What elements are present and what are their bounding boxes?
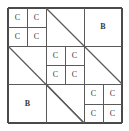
cell-label-text: C — [53, 71, 58, 79]
cell-label-text: C — [34, 14, 39, 22]
cell-c-l3-br-3: C — [84, 104, 103, 123]
cell-c-l3-br-2: C — [103, 84, 122, 103]
recursive-square-dissection-figure: CCCCBCCCCBCCCC — [0, 0, 129, 131]
cell-label-text: C — [15, 33, 20, 41]
cell-c-l1-tl-3: C — [8, 27, 27, 46]
cell-b-l1-tr: B — [84, 8, 122, 46]
cell-label-text: C — [53, 52, 58, 60]
cell-label-text: C — [15, 14, 20, 22]
cell-label-text: C — [110, 110, 115, 118]
cell-c-l3-br-4: C — [103, 104, 122, 123]
cell-label-text: B — [100, 23, 105, 31]
cell-c-l3-br-1: C — [84, 84, 103, 103]
cell-label-text: C — [34, 33, 39, 41]
cell-label-text: C — [72, 52, 77, 60]
line-diag-level3 — [46, 84, 84, 123]
cell-label-text: C — [110, 90, 115, 98]
cell-c-l1-tl-4: C — [27, 27, 46, 46]
cell-c-l1-tl-2: C — [27, 8, 46, 27]
cell-label-text: B — [25, 100, 30, 108]
cell-c-l2-c-4: C — [65, 65, 84, 84]
cell-c-l2-c-3: C — [46, 65, 65, 84]
cell-label-text: C — [72, 71, 77, 79]
cell-label-text: C — [91, 90, 96, 98]
cell-c-l2-c-2: C — [65, 46, 84, 65]
cell-b-l2-bl: B — [8, 84, 47, 123]
cell-c-l1-tl-1: C — [8, 8, 27, 27]
cell-c-l2-c-1: C — [46, 46, 65, 65]
cell-label-text: C — [91, 110, 96, 118]
